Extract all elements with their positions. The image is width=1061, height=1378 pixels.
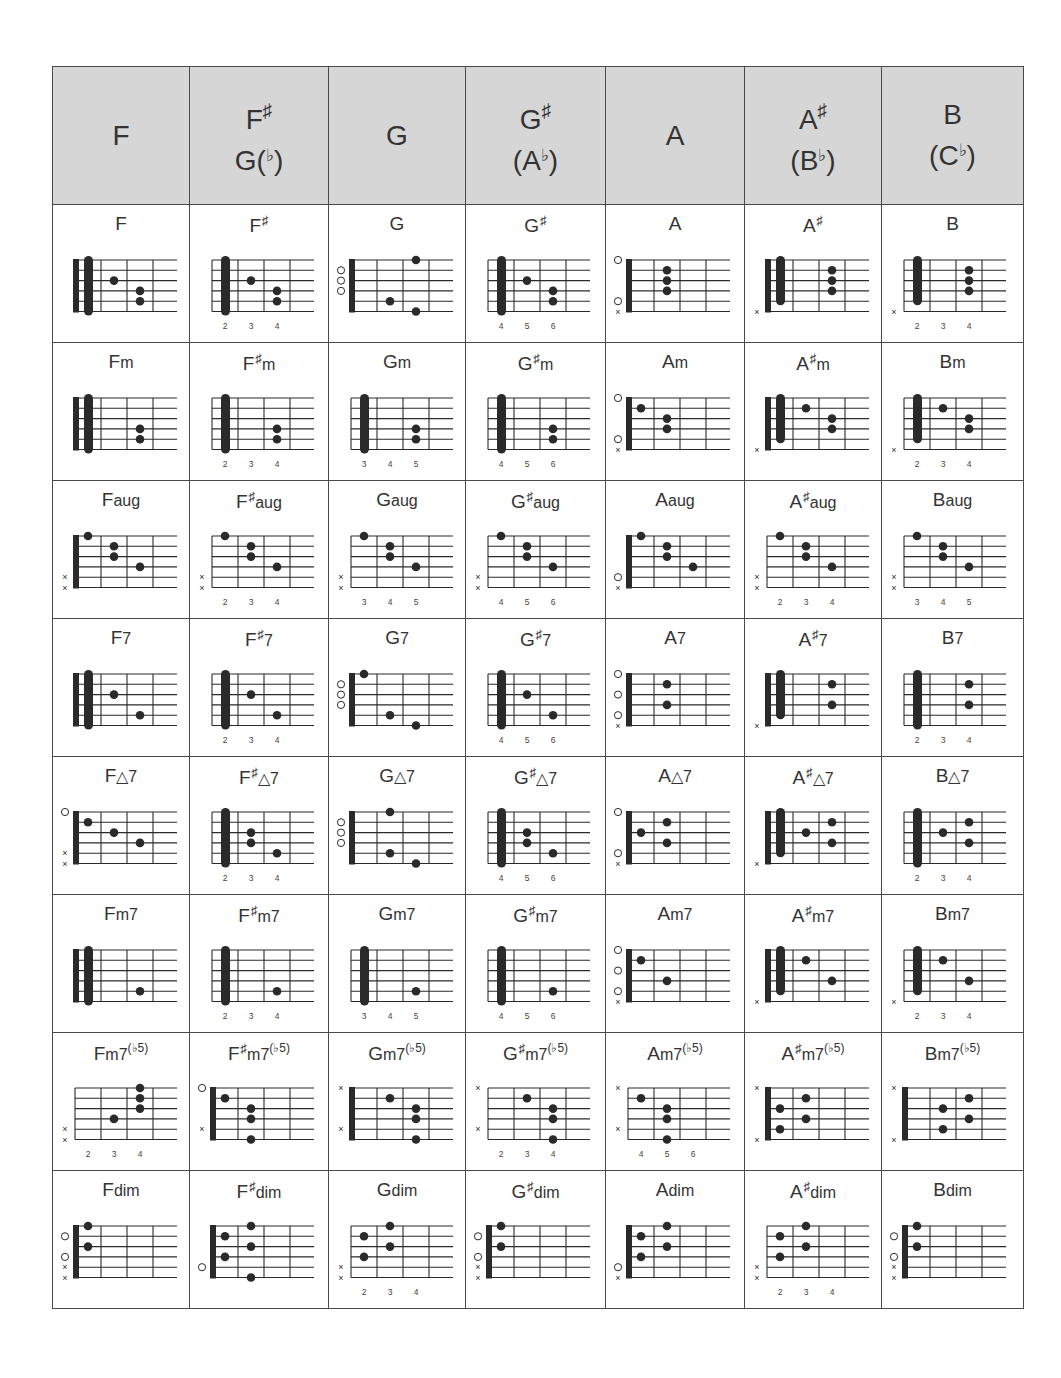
chord-cell: G♯dim×× xyxy=(466,1171,606,1309)
chord-diagram: 234 xyxy=(882,619,1023,756)
finger-dot xyxy=(965,425,974,434)
finger-dot xyxy=(913,1222,922,1231)
nut xyxy=(626,811,632,865)
fret-number: 2 xyxy=(915,873,920,883)
finger-dot xyxy=(497,1242,506,1251)
barre xyxy=(84,256,93,316)
finger-dot xyxy=(637,956,646,965)
muted-string-icon: × xyxy=(475,1273,480,1283)
chord-diagram: ××234 xyxy=(329,1171,465,1308)
finger-dot xyxy=(965,276,974,285)
barre xyxy=(360,394,369,454)
chord-diagram: 345 xyxy=(329,895,465,1032)
fret-number: 4 xyxy=(499,873,504,883)
fret-number: 3 xyxy=(362,597,367,607)
open-string-icon xyxy=(614,436,621,443)
chord-cell: Fm xyxy=(53,343,190,481)
chord-cell: A△7× xyxy=(606,757,745,895)
chord-cell: F♯dim xyxy=(190,1171,329,1309)
fret-number: 5 xyxy=(665,1149,670,1159)
fret-number: 3 xyxy=(112,1149,117,1159)
open-string-icon xyxy=(614,670,621,677)
fret-number: 2 xyxy=(499,1149,504,1159)
finger-dot xyxy=(386,297,395,306)
fret-number: 4 xyxy=(275,459,280,469)
finger-dot xyxy=(663,425,672,434)
open-string-icon xyxy=(337,829,344,836)
finger-dot xyxy=(412,256,421,265)
muted-string-icon: × xyxy=(891,997,896,1007)
muted-string-icon: × xyxy=(615,1273,620,1283)
finger-dot xyxy=(523,276,532,285)
chord-diagram: ×× xyxy=(329,1033,465,1170)
chord-diagram: 234 xyxy=(190,757,328,894)
muted-string-icon: × xyxy=(338,583,343,593)
finger-dot xyxy=(828,977,837,986)
finger-dot xyxy=(549,711,558,720)
fret-number: 2 xyxy=(223,459,228,469)
finger-dot xyxy=(412,307,421,316)
fret-number: 4 xyxy=(275,873,280,883)
chord-diagram xyxy=(329,205,465,342)
chord-diagram: ××456 xyxy=(466,481,605,618)
finger-dot xyxy=(412,1135,421,1144)
finger-dot xyxy=(136,297,145,306)
chord-diagram: × xyxy=(606,205,744,342)
nut xyxy=(73,259,79,313)
muted-string-icon: × xyxy=(62,1135,67,1145)
column-header-label: A♯ xyxy=(745,93,881,138)
finger-dot xyxy=(663,1135,672,1144)
muted-string-icon: × xyxy=(615,859,620,869)
chord-cell: F♯234 xyxy=(190,205,329,343)
nut xyxy=(73,1225,79,1279)
nut xyxy=(73,673,79,727)
chord-cell: A♯7× xyxy=(745,619,882,757)
finger-dot xyxy=(110,552,119,561)
fret-number: 4 xyxy=(388,1011,393,1021)
finger-dot xyxy=(965,680,974,689)
fret-number: 5 xyxy=(525,597,530,607)
nut xyxy=(73,397,79,451)
chord-row-m7b5: Fm7(♭5)××234F♯m7(♭5)×Gm7(♭5)××G♯m7(♭5)××… xyxy=(53,1033,1024,1171)
finger-dot xyxy=(965,1094,974,1103)
finger-dot xyxy=(663,266,672,275)
finger-dot xyxy=(828,276,837,285)
finger-dot xyxy=(247,1273,256,1282)
finger-dot xyxy=(136,563,145,572)
finger-dot xyxy=(247,542,256,551)
finger-dot xyxy=(802,552,811,561)
muted-string-icon: × xyxy=(338,1273,343,1283)
finger-dot xyxy=(965,1115,974,1124)
finger-dot xyxy=(549,1104,558,1113)
barre xyxy=(776,670,785,719)
chord-diagram: ××456 xyxy=(606,1033,744,1170)
fret-number: 4 xyxy=(499,321,504,331)
finger-dot xyxy=(136,287,145,296)
finger-dot xyxy=(273,287,282,296)
open-string-icon xyxy=(614,298,621,305)
finger-dot xyxy=(412,987,421,996)
open-string-icon xyxy=(614,1264,621,1271)
finger-dot xyxy=(523,828,532,837)
fret-number: 4 xyxy=(275,321,280,331)
barre xyxy=(913,256,922,305)
chord-cell: F7 xyxy=(53,619,190,757)
chord-cell: G♯m456 xyxy=(466,343,606,481)
finger-dot xyxy=(637,404,646,413)
finger-dot xyxy=(136,711,145,720)
column-header-label: G xyxy=(329,118,465,154)
fret-number: 4 xyxy=(138,1149,143,1159)
nut xyxy=(73,811,79,865)
finger-dot xyxy=(412,563,421,572)
chord-diagram: 456 xyxy=(466,895,605,1032)
chord-diagram: × xyxy=(606,757,744,894)
barre xyxy=(913,808,922,868)
finger-dot xyxy=(939,956,948,965)
chord-cell: F♯△7234 xyxy=(190,757,329,895)
chord-diagram xyxy=(53,205,189,342)
muted-string-icon: × xyxy=(475,1083,480,1093)
finger-dot xyxy=(412,1115,421,1124)
barre xyxy=(497,946,506,1006)
chord-cell: F♯m7234 xyxy=(190,895,329,1033)
fret-number: 4 xyxy=(967,735,972,745)
